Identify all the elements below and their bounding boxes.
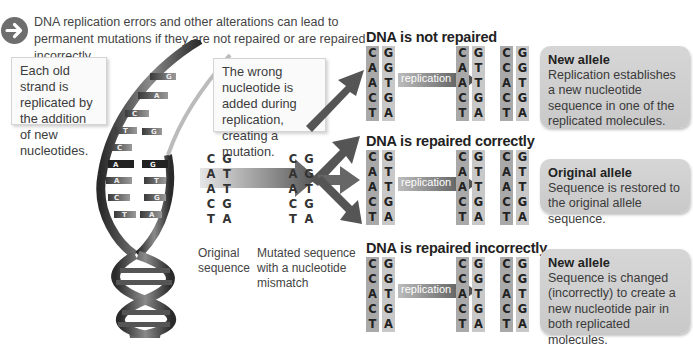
- right-strand: GTTGA: [472, 46, 485, 121]
- right-strand: GTTGA: [516, 150, 529, 225]
- svg-text:A: A: [113, 161, 119, 169]
- result-box: Original alleleSequence is restored to t…: [540, 159, 690, 213]
- result-box-title: New allele: [548, 52, 682, 68]
- scenario-title: DNA is not repaired: [366, 29, 497, 45]
- left-strand: CAACT: [500, 150, 513, 225]
- svg-text:G: G: [150, 161, 156, 169]
- svg-text:C: C: [114, 194, 119, 202]
- svg-text:A: A: [114, 177, 120, 185]
- result-sequence-2: CAACTGTTGA: [500, 150, 529, 225]
- svg-text:T: T: [122, 211, 127, 219]
- original-right-strand: GTTGA: [222, 152, 232, 227]
- replication-label: replication: [401, 283, 451, 295]
- result-box: New alleleSequence is changed (incorrect…: [540, 249, 690, 334]
- left-strand: CCACT: [500, 257, 513, 332]
- result-box-text: Replication establishes a new nucleotide…: [548, 68, 682, 130]
- left-strand: CAACT: [456, 46, 469, 121]
- result-box-text: Sequence is restored to the original all…: [548, 181, 682, 228]
- result-sequence-1: CAACTGTTGA: [456, 46, 485, 121]
- left-strand: CCACT: [366, 257, 379, 332]
- svg-text:C: C: [117, 144, 122, 152]
- original-sequence: CAACT GTTGA: [206, 152, 232, 227]
- svg-text:T: T: [154, 177, 159, 185]
- right-strand: GGTGA: [516, 46, 529, 121]
- left-strand: CCACT: [500, 46, 513, 121]
- left-strand: CAACT: [366, 150, 379, 225]
- result-sequence-1: CAACTGTTGA: [456, 150, 485, 225]
- svg-text:G: G: [154, 194, 160, 202]
- scenario-title: DNA is repaired incorrectly: [366, 240, 547, 256]
- result-box-title: New allele: [548, 255, 682, 271]
- left-strand: CAACT: [366, 46, 379, 121]
- right-strand: GGTGA: [382, 257, 395, 332]
- mutated-sequence: CAACT GGTGA: [288, 152, 314, 227]
- right-strand: GGTGA: [516, 257, 529, 332]
- svg-text:A: A: [154, 92, 160, 100]
- svg-text:T: T: [123, 127, 128, 135]
- result-sequence-2: CCACTGGTGA: [500, 46, 529, 121]
- mutated-caption: Mutated sequence with a nucleotide misma…: [257, 246, 377, 291]
- left-strand: CAACT: [456, 150, 469, 225]
- replication-label: replication: [401, 176, 451, 188]
- start-sequence: CAACTGGTGA: [366, 46, 395, 121]
- right-strand: GGTGA: [472, 257, 485, 332]
- original-left-strand: CAACT: [206, 152, 216, 227]
- result-box-text: Sequence is changed (incorrectly) to cre…: [548, 271, 682, 348]
- svg-text:C: C: [132, 110, 137, 118]
- result-sequence-1: CCACTGGTGA: [456, 257, 485, 332]
- svg-text:A: A: [149, 211, 155, 219]
- scenario-title: DNA is repaired correctly: [366, 133, 535, 149]
- mutated-right-strand: GGTGA: [304, 152, 314, 227]
- result-sequence-2: CCACTGGTGA: [500, 257, 529, 332]
- callout-old-strand: Each old strand is replicated by the add…: [11, 57, 107, 125]
- start-sequence: CCACTGGTGA: [366, 257, 395, 332]
- start-sequence: CAACTGTTGA: [366, 150, 395, 225]
- right-strand: GTTGA: [472, 150, 485, 225]
- mutated-left-strand: CAACT: [288, 152, 298, 227]
- svg-text:G: G: [166, 73, 172, 81]
- replication-label: replication: [401, 72, 451, 84]
- right-strand: GGTGA: [382, 46, 395, 121]
- result-box: New alleleReplication establishes a new …: [540, 46, 690, 128]
- right-strand: GTTGA: [382, 150, 395, 225]
- original-caption: Original sequence: [198, 246, 250, 276]
- arrow-right-circle-icon: [1, 17, 28, 44]
- left-strand: CCACT: [456, 257, 469, 332]
- svg-text:G: G: [151, 128, 157, 136]
- result-box-title: Original allele: [548, 165, 682, 181]
